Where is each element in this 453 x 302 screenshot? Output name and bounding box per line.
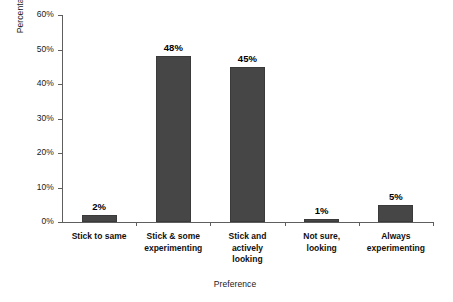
bar xyxy=(378,205,413,222)
bar-value-label: 5% xyxy=(366,191,426,202)
y-axis-tick-label: 20% xyxy=(0,147,54,157)
y-axis-tick-label: 40% xyxy=(0,78,54,88)
bar-value-label: 2% xyxy=(69,201,129,212)
x-axis-category-label: Stick to same xyxy=(63,231,135,243)
x-axis-tick-mark xyxy=(210,222,211,226)
x-axis-category-label: Alwaysexperimenting xyxy=(360,231,432,254)
bar xyxy=(304,219,339,222)
y-axis-tick-label: 60% xyxy=(0,9,54,19)
x-axis-tick-mark xyxy=(136,222,137,226)
y-axis-tick-label: 30% xyxy=(0,113,54,123)
bar xyxy=(156,56,191,222)
x-axis-tick-mark xyxy=(433,222,434,226)
bar-value-label: 1% xyxy=(292,205,352,216)
bar xyxy=(230,67,265,222)
bar-chart: Percentage of respondents 0%10%20%30%40%… xyxy=(0,0,453,302)
x-axis-tick-mark xyxy=(359,222,360,226)
x-axis-category-label: Stick andactivelylooking xyxy=(211,231,283,266)
bar xyxy=(82,215,117,222)
y-axis-tick-label: 10% xyxy=(0,182,54,192)
y-axis-tick-mark xyxy=(58,222,62,223)
y-axis-tick-label: 50% xyxy=(0,44,54,54)
x-axis-category-label: Not sure,looking xyxy=(286,231,358,254)
bar-value-label: 48% xyxy=(143,42,203,53)
x-axis-category-label: Stick & someexperimenting xyxy=(137,231,209,254)
x-axis-line xyxy=(62,222,434,223)
bar-value-label: 45% xyxy=(218,53,278,64)
x-axis-title: Preference xyxy=(160,279,310,289)
x-axis-tick-mark xyxy=(285,222,286,226)
y-axis-tick-label: 0% xyxy=(0,216,54,226)
